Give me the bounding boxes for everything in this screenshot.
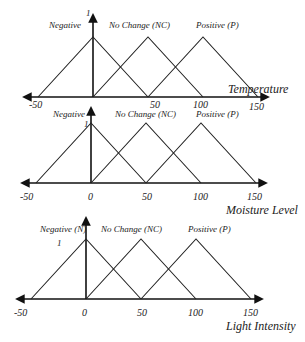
tick-label: 150 <box>243 307 258 318</box>
positive-mf <box>141 239 251 299</box>
set-label-negative: Negative <box>48 20 81 30</box>
set-label-no-change: No Change (NC) <box>108 20 170 30</box>
membership-functions-figure: 1 Negative No Change (NC) Positive (P) -… <box>0 0 305 342</box>
positive-mf <box>146 123 256 183</box>
y-max-label: 1 <box>57 238 62 248</box>
tick-label: 50 <box>137 307 147 318</box>
axis-title: Temperature <box>228 82 289 96</box>
tick-label: 0 <box>82 307 87 318</box>
set-label-negative: Negative <box>52 109 85 119</box>
light-intensity-chart: 1 Negative (N) No Change (NC) Positive (… <box>14 218 296 333</box>
tick-label: 100 <box>193 191 208 202</box>
tick-label: 50 <box>142 191 152 202</box>
tick-label: 150 <box>247 191 262 202</box>
set-label-positive: Positive (P) <box>195 20 239 30</box>
temperature-chart: 1 Negative No Change (NC) Positive (P) -… <box>24 8 289 112</box>
set-label-no-change: No Change (NC) <box>100 224 162 234</box>
set-label-positive: Positive (P) <box>195 109 239 119</box>
no-change-mf <box>86 239 196 299</box>
tick-label: -50 <box>20 191 33 202</box>
set-label-positive: Positive (P) <box>187 224 231 234</box>
axis-title: Light Intensity <box>225 319 296 333</box>
no-change-mf <box>93 37 203 97</box>
tick-label: 150 <box>249 101 264 112</box>
set-label-no-change: No Change (NC) <box>114 109 176 119</box>
tick-label: 0 <box>88 191 93 202</box>
y-max-label: 1 <box>86 8 91 18</box>
tick-label: 100 <box>188 307 203 318</box>
set-label-negative: Negative (N) <box>39 224 86 234</box>
tick-label: -50 <box>14 307 27 318</box>
moisture-chart: 1 Negative No Change (NC) Positive (P) -… <box>20 108 299 217</box>
tick-label: -50 <box>29 99 42 110</box>
axis-title: Moisture Level <box>225 203 299 217</box>
y-max-label: 1 <box>84 119 89 129</box>
no-change-mf <box>91 123 201 183</box>
